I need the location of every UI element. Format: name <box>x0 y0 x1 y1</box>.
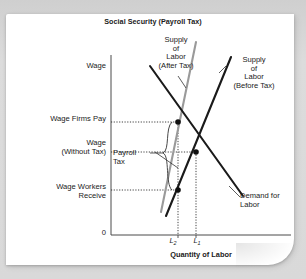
label-quantity-l2-subscript: 2 <box>174 240 177 246</box>
payroll-tax-pointer <box>155 152 178 168</box>
label-quantity-l2: L2 <box>164 237 182 247</box>
supply-after-tax-pointer <box>178 76 186 88</box>
point-wage-without-tax <box>193 149 199 155</box>
label-supply-before-tax: Supply of Labor (Before Tax) <box>221 56 287 90</box>
label-wage-without-tax: Wage (Without Tax) <box>22 139 106 156</box>
demand-label-pointer <box>229 186 240 197</box>
label-origin: 0 <box>92 229 106 238</box>
point-wage-workers-receive <box>175 187 181 193</box>
label-supply-after-tax: Supply of Labor (After Tax) <box>148 36 204 70</box>
label-payroll-tax: Payroll Tax <box>113 149 157 166</box>
label-wage-workers-receive: Wage Workers Receive <box>16 183 106 200</box>
chart-title: Social Security (Payroll Tax) <box>0 18 306 26</box>
point-wage-firms-pay <box>175 119 181 125</box>
label-demand-for-labor: Demand for Labor <box>240 192 300 209</box>
label-x-axis-quantity-of-labor: Quantity of Labor <box>111 251 291 259</box>
label-quantity-l1-subscript: 1 <box>198 240 201 246</box>
label-y-axis-wage: Wage <box>48 62 106 71</box>
label-quantity-l1: L1 <box>188 237 206 247</box>
label-wage-firms-pay: Wage Firms Pay <box>22 115 106 124</box>
